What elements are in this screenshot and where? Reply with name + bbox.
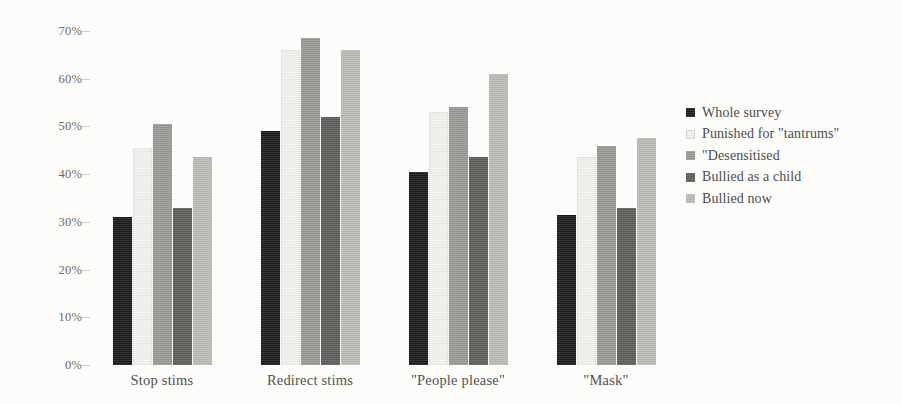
bar-group bbox=[236, 31, 384, 365]
legend-item-label: Whole survey bbox=[702, 105, 781, 121]
bar-slot bbox=[449, 31, 468, 365]
bar-slot bbox=[577, 31, 596, 365]
bar-slot bbox=[153, 31, 172, 365]
bar-slot bbox=[429, 31, 448, 365]
bar-groups bbox=[88, 31, 680, 365]
y-axis-tick-label: 40% bbox=[58, 167, 82, 182]
bar[interactable] bbox=[489, 74, 508, 365]
bar[interactable] bbox=[301, 38, 320, 365]
x-axis-category-label: "Mask" bbox=[532, 372, 680, 398]
y-axis-tick-label: 10% bbox=[58, 310, 82, 325]
bar-slot bbox=[173, 31, 192, 365]
plot-area bbox=[88, 31, 680, 365]
bar-slot bbox=[261, 31, 280, 365]
y-axis-tick-label: 20% bbox=[58, 262, 82, 277]
bar[interactable] bbox=[449, 107, 468, 365]
bar[interactable] bbox=[133, 148, 152, 365]
bar-slot bbox=[637, 31, 656, 365]
bar[interactable] bbox=[173, 208, 192, 365]
bar-slot bbox=[321, 31, 340, 365]
bar-slot bbox=[469, 31, 488, 365]
y-axis-tick-label: 30% bbox=[58, 214, 82, 229]
legend-swatch-icon bbox=[686, 151, 695, 160]
bar[interactable] bbox=[261, 131, 280, 365]
bar[interactable] bbox=[637, 138, 656, 365]
bar[interactable] bbox=[341, 50, 360, 365]
bar-chart-figure: 0%10%20%30%40%50%60%70% Stop stimsRedire… bbox=[0, 0, 902, 404]
bar-slot bbox=[193, 31, 212, 365]
bar-slot bbox=[113, 31, 132, 365]
bar-slot bbox=[133, 31, 152, 365]
bar-group bbox=[532, 31, 680, 365]
legend-item[interactable]: "Desensitised bbox=[686, 145, 896, 167]
legend-swatch-icon bbox=[686, 108, 695, 117]
bar[interactable] bbox=[557, 215, 576, 365]
bar[interactable] bbox=[409, 172, 428, 365]
bar-slot bbox=[409, 31, 428, 365]
legend-item-label: "Desensitised bbox=[702, 148, 780, 164]
bar[interactable] bbox=[193, 157, 212, 365]
bar-slot bbox=[301, 31, 320, 365]
bar[interactable] bbox=[469, 157, 488, 365]
bar[interactable] bbox=[577, 157, 596, 365]
bar-slot bbox=[597, 31, 616, 365]
bar-slot bbox=[281, 31, 300, 365]
x-axis-category-label: Stop stims bbox=[88, 372, 236, 398]
legend-item[interactable]: Punished for "tantrums" bbox=[686, 124, 896, 146]
y-axis-tick-mark bbox=[82, 365, 90, 366]
legend-item[interactable]: Whole survey bbox=[686, 102, 896, 124]
bar-slot bbox=[341, 31, 360, 365]
bar-group bbox=[88, 31, 236, 365]
y-axis-tick-label: 50% bbox=[58, 119, 82, 134]
bar[interactable] bbox=[429, 112, 448, 365]
y-axis: 0%10%20%30%40%50%60%70% bbox=[30, 0, 82, 404]
bar[interactable] bbox=[617, 208, 636, 365]
y-axis-tick-label: 60% bbox=[58, 71, 82, 86]
y-axis-tick-label: 0% bbox=[65, 358, 82, 373]
bar-slot bbox=[617, 31, 636, 365]
y-axis-tick-label: 70% bbox=[58, 24, 82, 39]
bar[interactable] bbox=[321, 117, 340, 365]
bar-group bbox=[384, 31, 532, 365]
bar-slot bbox=[489, 31, 508, 365]
bar[interactable] bbox=[597, 146, 616, 365]
bar[interactable] bbox=[281, 50, 300, 365]
legend-item-label: Bullied now bbox=[702, 191, 772, 207]
legend-item-label: Punished for "tantrums" bbox=[702, 126, 839, 142]
legend-swatch-icon bbox=[686, 130, 695, 139]
x-axis-category-label: "People please" bbox=[384, 372, 532, 398]
legend-swatch-icon bbox=[686, 173, 695, 182]
x-axis: Stop stimsRedirect stims"People please""… bbox=[88, 372, 680, 398]
legend-item[interactable]: Bullied as a child bbox=[686, 167, 896, 189]
legend-item-label: Bullied as a child bbox=[702, 169, 801, 185]
chart-legend: Whole surveyPunished for "tantrums""Dese… bbox=[686, 102, 896, 210]
legend-swatch-icon bbox=[686, 194, 695, 203]
x-axis-category-label: Redirect stims bbox=[236, 372, 384, 398]
bar[interactable] bbox=[153, 124, 172, 365]
bar[interactable] bbox=[113, 217, 132, 365]
legend-item[interactable]: Bullied now bbox=[686, 188, 896, 210]
bar-slot bbox=[557, 31, 576, 365]
